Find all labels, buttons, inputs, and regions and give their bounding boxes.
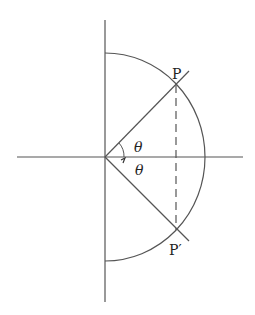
angle-marker [119,143,124,157]
label-p-prime: P′ [169,242,182,258]
label-p: P [172,66,181,82]
label-theta-bottom: θ [135,162,144,178]
label-theta-top: θ [134,139,143,155]
angle-arrow-icon [121,158,125,163]
geometry-diagram: P P′ θ θ [0,0,255,315]
